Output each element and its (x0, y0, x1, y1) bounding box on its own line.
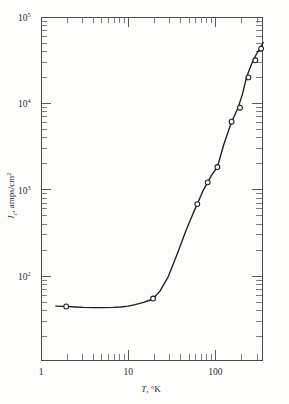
svg-text:Jc, amps/cm2: Jc, amps/cm2 (5, 173, 18, 220)
log-log-chart: 105 104 103 102 1 10 100 Jc, amps/cm2 (0, 0, 289, 404)
svg-text:T, °K: T, °K (141, 384, 161, 394)
x-tick-label-10: 10 (123, 367, 133, 377)
y-axis-ticks (41, 17, 262, 336)
data-curve (56, 43, 263, 308)
y-tick-label-1e3: 103 (18, 184, 31, 196)
x-tick-label-1: 1 (39, 367, 44, 377)
x-axis-ticks (41, 17, 257, 360)
y-tick-label-1e2: 102 (18, 270, 31, 282)
y-axis-title: Jc, amps/cm2 (5, 173, 18, 220)
data-markers (64, 46, 264, 309)
x-tick-labels: 1 10 100 (39, 367, 223, 377)
x-tick-label-100: 100 (208, 367, 223, 377)
y-tick-label-1e4: 104 (18, 97, 32, 109)
x-axis-title: T, °K (141, 384, 161, 394)
y-tick-label-1e5: 105 (18, 11, 31, 23)
plot-frame (41, 17, 262, 360)
figure-container: 105 104 103 102 1 10 100 Jc, amps/cm2 (0, 0, 289, 404)
y-tick-labels: 105 104 103 102 (18, 11, 32, 282)
